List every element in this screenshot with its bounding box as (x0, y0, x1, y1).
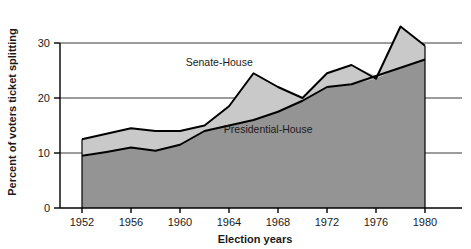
x-tick-label-1968: 1968 (266, 216, 290, 228)
y-axis: 0102030 (38, 37, 60, 214)
x-tick-label-1960: 1960 (168, 216, 192, 228)
series-label-presidential-house: Presidential-House (224, 123, 313, 135)
x-axis-ticks: 19521956196019641968197219761980 (70, 208, 437, 228)
x-tick-label-1964: 1964 (217, 216, 241, 228)
y-tick-label-10: 10 (38, 147, 50, 159)
chart-canvas: 0102030 19521956196019641968197219761980… (0, 0, 471, 249)
y-tick-label-0: 0 (44, 202, 50, 214)
y-axis-title: Percent of voters ticket splitting (6, 28, 18, 195)
x-axis: 19521956196019641968197219761980 (60, 208, 462, 228)
y-axis-ticks: 0102030 (38, 37, 60, 214)
y-tick-label-20: 20 (38, 92, 50, 104)
x-axis-title: Election years (218, 233, 293, 245)
plot-area (60, 27, 462, 209)
x-tick-label-1952: 1952 (70, 216, 94, 228)
x-tick-label-1976: 1976 (364, 216, 388, 228)
x-tick-label-1972: 1972 (315, 216, 339, 228)
ticket-splitting-area-chart: 0102030 19521956196019641968197219761980… (0, 0, 471, 249)
y-tick-label-30: 30 (38, 37, 50, 49)
series-label-senate-house: Senate-House (186, 56, 253, 68)
x-tick-label-1980: 1980 (413, 216, 437, 228)
x-tick-label-1956: 1956 (119, 216, 143, 228)
